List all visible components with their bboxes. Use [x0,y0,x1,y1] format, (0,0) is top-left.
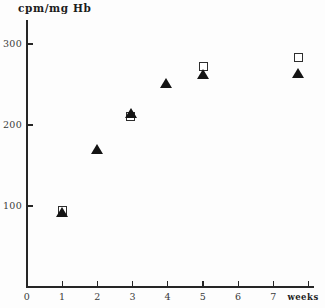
chart-figure: cpm/mg Hb 100200300 01234567 weeks [0,0,325,308]
data-point-filled-triangle [160,78,172,88]
y-tick-mark [27,124,33,125]
data-point-filled-triangle [56,207,68,217]
x-tick-mark-end [308,281,309,287]
data-point-filled-triangle [292,68,304,78]
x-axis-title: weeks [287,292,318,302]
y-tick-label: 100 [0,200,22,211]
data-point-filled-triangle [197,69,209,79]
x-tick-mark [132,281,133,287]
x-tick-mark [167,281,168,287]
x-axis-line [26,286,314,288]
data-point-filled-triangle [125,108,137,118]
y-tick-mark [27,43,33,44]
x-tick-label: 5 [195,291,211,302]
x-tick-label: 7 [265,291,281,302]
y-tick-label: 300 [0,38,22,49]
x-tick-mark [273,281,274,287]
x-tick-label: 2 [89,291,105,302]
x-tick-mark [97,281,98,287]
x-tick-label: 0 [19,291,35,302]
x-tick-label: 4 [160,291,176,302]
x-tick-mark [62,281,63,287]
y-axis-line [26,20,28,287]
data-point-open-square [294,53,303,62]
data-point-filled-triangle [91,144,103,154]
x-tick-label: 3 [125,291,141,302]
x-tick-mark [26,281,27,287]
plot-area: 100200300 01234567 weeks [0,0,325,308]
y-tick-mark [27,205,33,206]
x-tick-label: 1 [54,291,70,302]
x-tick-mark [238,281,239,287]
x-tick-mark [202,281,203,287]
x-tick-label: 6 [230,291,246,302]
y-tick-label: 200 [0,119,22,130]
